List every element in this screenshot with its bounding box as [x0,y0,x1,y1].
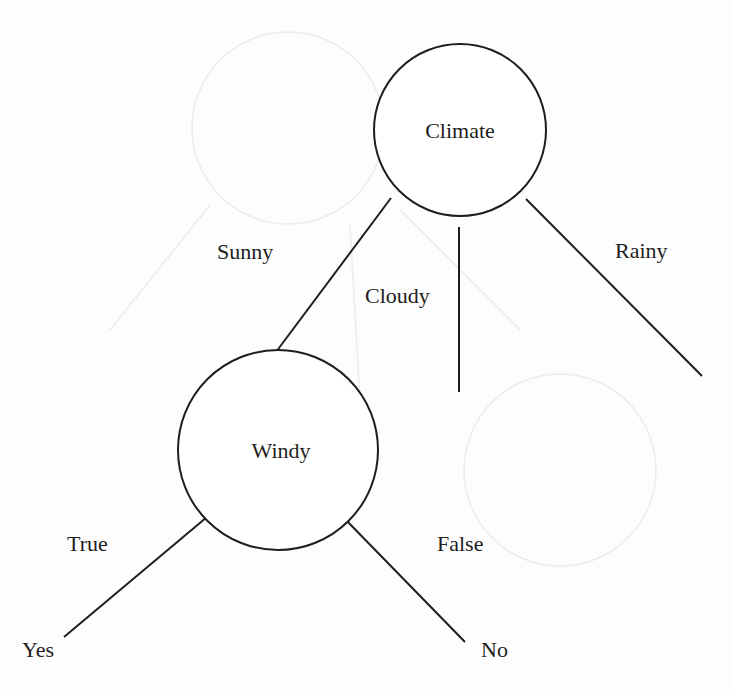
edge-rainy [526,199,702,376]
edges [64,198,702,642]
edge-labels: Sunny Cloudy Rainy True False [67,238,668,556]
edge-label-false: False [437,531,483,556]
edge-sunny [276,198,391,352]
leaf-yes: Yes [22,637,54,662]
edge-label-rainy: Rainy [615,238,668,263]
edge-label-sunny: Sunny [217,239,273,264]
edge-label-true: True [67,531,108,556]
decision-tree-diagram: Climate Windy Sunny Cloudy Rainy True Fa… [0,0,732,693]
leaf-no: No [481,637,508,662]
leaves: Yes No [22,637,508,662]
node-climate-label: Climate [425,118,495,143]
node-climate: Climate [374,44,546,216]
node-windy-label: Windy [252,438,311,463]
edge-label-cloudy: Cloudy [365,283,430,308]
node-windy: Windy [178,350,378,550]
